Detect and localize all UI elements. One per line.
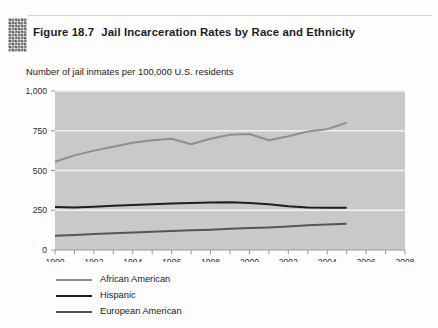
figure-title: Jail Incarceration Rates by Race and Eth… xyxy=(101,26,355,38)
figure-header: Figure 18.7Jail Incarceration Rates by R… xyxy=(0,14,438,54)
y-axis-labels: 02505007501,000 xyxy=(25,86,47,255)
svg-text:1,000: 1,000 xyxy=(25,86,47,96)
x-axis-labels: 1990199219941996199820002002200420062008 xyxy=(45,257,414,262)
x-axis-ticks xyxy=(55,250,405,255)
svg-text:2000: 2000 xyxy=(240,257,259,262)
svg-text:750: 750 xyxy=(33,126,48,136)
chart-legend: African AmericanHispanicEuropean America… xyxy=(56,272,356,320)
textured-block-icon xyxy=(8,18,27,52)
svg-text:2002: 2002 xyxy=(279,257,298,262)
figure-number: Figure 18.7 xyxy=(33,26,94,38)
legend-label: African American xyxy=(100,275,170,284)
svg-text:1996: 1996 xyxy=(162,257,181,262)
legend-label: European American xyxy=(100,307,182,316)
svg-text:2004: 2004 xyxy=(318,257,337,262)
figure-page: Figure 18.7Jail Incarceration Rates by R… xyxy=(0,0,438,328)
chart-subtitle: Number of jail inmates per 100,000 U.S. … xyxy=(26,66,233,77)
header-divider xyxy=(28,15,432,16)
chart-container: 02505007501,000 199019921994199619982000… xyxy=(0,82,438,262)
legend-item-0: African American xyxy=(56,272,356,288)
figure-caption: Figure 18.7Jail Incarceration Rates by R… xyxy=(33,26,355,38)
legend-item-2: European American xyxy=(56,304,356,320)
legend-swatch-icon xyxy=(56,311,92,313)
svg-text:1998: 1998 xyxy=(201,257,220,262)
legend-label: Hispanic xyxy=(100,291,136,300)
svg-text:0: 0 xyxy=(42,245,47,255)
legend-swatch-icon xyxy=(56,295,92,297)
svg-text:2008: 2008 xyxy=(395,257,414,262)
line-chart: 02505007501,000 199019921994199619982000… xyxy=(0,82,438,262)
legend-item-1: Hispanic xyxy=(56,288,356,304)
svg-text:1990: 1990 xyxy=(45,257,64,262)
svg-text:500: 500 xyxy=(33,166,48,176)
svg-text:2006: 2006 xyxy=(357,257,376,262)
y-axis-ticks xyxy=(51,91,55,250)
legend-swatch-icon xyxy=(56,279,92,281)
svg-text:1992: 1992 xyxy=(84,257,103,262)
svg-text:1994: 1994 xyxy=(123,257,142,262)
svg-text:250: 250 xyxy=(33,205,48,215)
